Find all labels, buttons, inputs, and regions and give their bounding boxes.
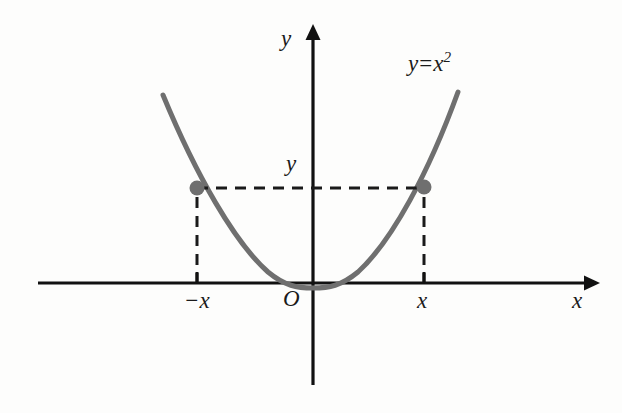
curve-equation-lhs: y xyxy=(408,51,418,76)
y-axis-label: y xyxy=(281,27,291,50)
x-axis-label: x xyxy=(572,289,582,312)
x-axis-arrowhead-icon xyxy=(584,276,600,291)
parabola-curve xyxy=(163,92,458,288)
curve-equation-label: y=x2 xyxy=(408,52,451,75)
y-value-label: y xyxy=(286,152,296,175)
diagram-canvas xyxy=(0,0,622,413)
origin-label: O xyxy=(283,287,300,310)
x-tick-label-negative: −x xyxy=(184,289,210,312)
parabola-diagram: y=x2 y x y O −x x xyxy=(0,0,622,413)
y-axis-arrowhead-icon xyxy=(306,24,321,40)
y-axis xyxy=(306,24,321,385)
left-symmetric-point-marker xyxy=(190,181,205,196)
curve-equation-equals: = xyxy=(418,51,433,76)
right-symmetric-point-marker xyxy=(417,180,432,195)
curve-equation-exponent: 2 xyxy=(443,48,451,65)
x-tick-label-positive: x xyxy=(417,289,427,312)
curve-equation-base: x xyxy=(433,51,443,76)
